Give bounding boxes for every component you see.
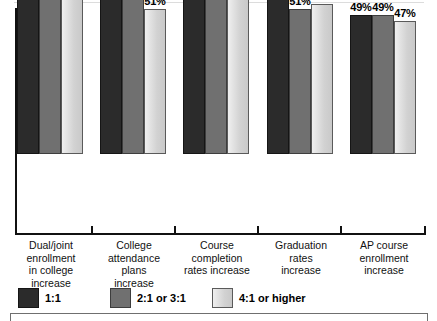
- legend-item[interactable]: 1:1: [18, 288, 61, 308]
- category-label-line: increase: [336, 264, 432, 277]
- bar-group-bars: 66%57%51%: [100, 0, 166, 154]
- axis-tick: [15, 226, 17, 234]
- bar[interactable]: 57%: [267, 0, 289, 154]
- legend-swatch: [110, 288, 131, 308]
- bottom-divider: [10, 313, 428, 314]
- bar[interactable]: 57%: [122, 0, 144, 154]
- axis-tick: [174, 226, 176, 234]
- category-label-line: AP course: [336, 239, 432, 252]
- category-label-line: Graduation: [253, 239, 349, 252]
- legend-label: 1:1: [45, 292, 61, 304]
- axis-tick: [91, 226, 93, 234]
- bar[interactable]: 56%: [227, 0, 249, 154]
- category-label-line: Course: [169, 239, 265, 252]
- bar-value-label: 51%: [289, 0, 310, 7]
- legend-item[interactable]: 4:1 or higher: [212, 288, 306, 308]
- bar-value-label: 49%: [372, 1, 393, 13]
- category-label-line: in college: [3, 264, 99, 277]
- bottom-divider-left-cap: [10, 313, 11, 321]
- category-labels: Dual/jointenrollmentin collegeincreaseCo…: [0, 239, 437, 295]
- bar[interactable]: 66%: [39, 0, 61, 154]
- axis-tick: [424, 226, 426, 234]
- bar-group-bars: 57%51%53%: [267, 0, 333, 154]
- legend-item[interactable]: 2:1 or 3:1: [110, 288, 186, 308]
- category-label: Dual/jointenrollmentin collegeincrease: [3, 239, 99, 289]
- category-label-line: completion: [169, 252, 265, 265]
- bar[interactable]: 51%: [289, 9, 311, 154]
- legend-label: 2:1 or 3:1: [137, 292, 186, 304]
- category-label-line: rates: [253, 252, 349, 265]
- bar[interactable]: 49%: [350, 15, 372, 154]
- category-label-line: attendance: [86, 252, 182, 265]
- category-label-line: plans: [86, 264, 182, 277]
- bar[interactable]: 49%: [372, 15, 394, 154]
- bottom-divider-right-cap: [427, 313, 428, 321]
- category-label-line: Dual/joint: [3, 239, 99, 252]
- bar-group-bars: 64%58%56%: [183, 0, 249, 154]
- axis-tick: [340, 226, 342, 234]
- bar-value-label: 49%: [350, 1, 371, 13]
- category-label-line: College: [86, 239, 182, 252]
- bar[interactable]: 64%: [183, 0, 205, 154]
- bar[interactable]: 47%: [394, 21, 416, 154]
- category-label-line: enrollment: [336, 252, 432, 265]
- category-label: Coursecompletionrates increase: [169, 239, 265, 277]
- bar[interactable]: 59%: [61, 0, 83, 154]
- bar-group: 57%51%53%: [267, 0, 335, 154]
- legend-swatch: [212, 288, 233, 308]
- bar-group: 66%57%51%: [100, 0, 168, 154]
- bar-value-label: 51%: [144, 0, 165, 7]
- bar-chart: 71%66%59%66%57%51%64%58%56%57%51%53%49%4…: [0, 0, 437, 321]
- bar[interactable]: 53%: [311, 4, 333, 154]
- category-label: AP courseenrollmentincrease: [336, 239, 432, 277]
- legend-swatch: [18, 288, 39, 308]
- bar-value-label: 47%: [394, 7, 415, 19]
- bar-group: 49%49%47%: [350, 0, 418, 154]
- bar[interactable]: 51%: [144, 9, 166, 154]
- bar-value-label: 53%: [311, 0, 332, 2]
- legend-label: 4:1 or higher: [239, 292, 306, 304]
- category-label-line: increase: [253, 264, 349, 277]
- category-label-line: enrollment: [3, 252, 99, 265]
- category-label-line: rates increase: [169, 264, 265, 277]
- category-label: Graduationratesincrease: [253, 239, 349, 277]
- bar-group: 64%58%56%: [183, 0, 251, 154]
- bar[interactable]: 71%: [17, 0, 39, 154]
- bar-group: 71%66%59%: [17, 0, 85, 154]
- plot-area: 71%66%59%66%57%51%64%58%56%57%51%53%49%4…: [0, 0, 437, 240]
- x-axis-line: [15, 233, 426, 235]
- bar[interactable]: 58%: [205, 0, 227, 154]
- bar-group-bars: 71%66%59%: [17, 0, 83, 154]
- axis-tick: [257, 226, 259, 234]
- chart-legend: 1:12:1 or 3:14:1 or higher: [0, 288, 437, 312]
- bar[interactable]: 66%: [100, 0, 122, 154]
- category-label: Collegeattendanceplansincrease: [86, 239, 182, 289]
- bar-group-bars: 49%49%47%: [350, 0, 416, 154]
